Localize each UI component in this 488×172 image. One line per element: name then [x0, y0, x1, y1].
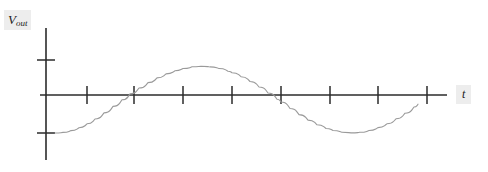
plot-canvas: [0, 0, 488, 172]
x-axis-label: t: [456, 85, 471, 104]
waveform-figure: Vout t: [0, 0, 488, 172]
axes-group: [40, 28, 447, 160]
y-axis-label-main: V: [8, 12, 16, 27]
sine-waveform-curve: [55, 66, 418, 133]
y-axis-label-subscript: out: [16, 18, 28, 28]
y-axis-label: Vout: [4, 10, 31, 30]
